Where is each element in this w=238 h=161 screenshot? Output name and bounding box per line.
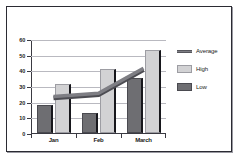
plot-area: 0102030405060 JanFebMarch (31, 40, 166, 134)
legend-swatch-icon (177, 65, 192, 73)
chart-legend: AverageHighLow (177, 43, 233, 97)
legend-label: Average (196, 48, 218, 54)
y-tick-label: 0 (22, 131, 25, 137)
y-tick-label: 10 (19, 115, 25, 121)
x-tick (31, 134, 32, 138)
average-line (31, 40, 166, 134)
legend-label: Low (196, 84, 207, 90)
chart-screenshot: 0102030405060 JanFebMarch AverageHighLow (0, 0, 238, 161)
legend-item-high: High (177, 61, 233, 77)
y-tick-label: 50 (19, 53, 25, 59)
x-tick-label: Feb (93, 137, 103, 143)
x-tick-label: March (135, 137, 152, 143)
y-tick-label: 30 (19, 84, 25, 90)
x-tick-label: Jan (49, 137, 59, 143)
y-tick-label: 40 (19, 68, 25, 74)
x-tick (165, 134, 166, 138)
y-tick-label: 60 (19, 37, 25, 43)
average-line-path (54, 68, 144, 96)
legend-item-average: Average (177, 43, 233, 59)
legend-swatch-icon (177, 83, 192, 91)
x-tick (76, 134, 77, 138)
legend-item-low: Low (177, 79, 233, 95)
chart-frame: 0102030405060 JanFebMarch AverageHighLow (6, 6, 232, 152)
legend-swatch-icon (177, 50, 192, 53)
x-tick (121, 134, 122, 138)
legend-label: High (196, 66, 208, 72)
y-tick-label: 20 (19, 100, 25, 106)
